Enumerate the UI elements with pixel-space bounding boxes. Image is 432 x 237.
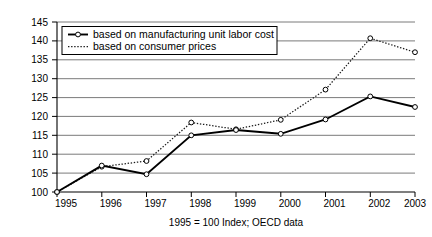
series-line-consumer-prices	[57, 38, 415, 192]
data-point-marker	[413, 105, 418, 110]
data-point-marker	[413, 50, 418, 55]
y-tick-label: 130	[31, 73, 48, 84]
y-tick-label: 100	[31, 187, 48, 198]
chart-legend: based on manufacturing unit labor cost b…	[62, 27, 277, 55]
chart-caption: 1995 = 100 Index; OECD data	[169, 217, 304, 228]
data-point-marker	[189, 120, 194, 125]
y-tick-label: 145	[31, 17, 48, 28]
y-axis-labels: 145 140 135 130 125 120 115 110 105 100	[31, 17, 48, 198]
data-point-marker	[144, 159, 149, 164]
data-point-marker	[189, 133, 194, 138]
series-markers-manufacturing-unit-labor-cost	[55, 94, 418, 194]
y-tick-label: 120	[31, 111, 48, 122]
y-tick-label: 135	[31, 54, 48, 65]
chart-container: 145 140 135 130 125 120 115 110 105 100 …	[0, 0, 432, 237]
x-tick-label: 1998	[189, 198, 212, 209]
y-tick-label: 115	[32, 130, 48, 141]
x-tick-label: 1995	[55, 198, 78, 209]
data-point-marker	[323, 87, 328, 92]
x-tickmarks	[57, 192, 415, 197]
y-tick-label: 125	[31, 92, 48, 103]
legend-label-consumer-prices: based on consumer prices	[93, 40, 216, 52]
y-tick-label: 110	[32, 149, 48, 160]
data-point-marker	[55, 190, 60, 195]
x-tick-label: 2001	[323, 198, 346, 209]
x-axis-labels: 1995 1996 1997 1998 1999 2000 2001 2002 …	[55, 198, 427, 209]
x-tick-label: 1997	[144, 198, 167, 209]
data-point-marker	[368, 36, 373, 41]
x-tick-label: 2002	[368, 198, 391, 209]
legend-label-manufacturing: based on manufacturing unit labor cost	[93, 28, 274, 40]
y-tickmarks	[52, 22, 57, 192]
data-point-marker	[144, 172, 149, 177]
legend-swatch-open-circle-icon	[76, 32, 81, 37]
y-tick-label: 105	[31, 168, 48, 179]
x-tick-label: 1999	[234, 198, 257, 209]
data-point-marker	[234, 128, 239, 133]
data-point-marker	[368, 94, 373, 99]
data-point-marker	[323, 117, 328, 122]
x-tick-label: 2003	[404, 198, 427, 209]
x-tick-label: 1996	[100, 198, 123, 209]
data-point-marker	[99, 163, 104, 168]
y-tick-label: 140	[31, 35, 48, 46]
data-point-marker	[278, 131, 283, 136]
series-line-manufacturing-unit-labor-cost	[57, 96, 415, 192]
data-point-marker	[278, 117, 283, 122]
line-chart: 145 140 135 130 125 120 115 110 105 100 …	[0, 0, 432, 237]
x-tick-label: 2000	[279, 198, 302, 209]
